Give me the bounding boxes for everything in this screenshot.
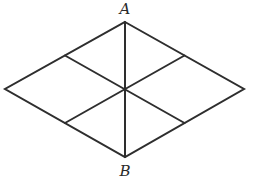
rhombus-diagram: A B <box>0 0 263 194</box>
vertex-label-b: B <box>119 164 130 179</box>
diagram-canvas <box>0 0 263 194</box>
vertex-label-a: A <box>120 2 131 17</box>
